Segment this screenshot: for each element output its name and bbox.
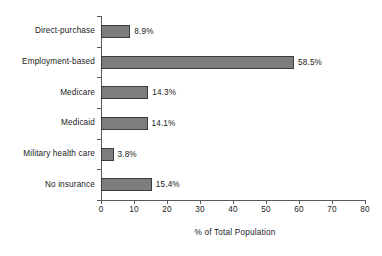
x-axis-tick [266, 200, 267, 204]
x-axis-tick-label: 30 [189, 205, 211, 215]
x-axis-title-text: % of Total Population [195, 228, 276, 237]
y-axis-label: Medicaid [3, 118, 95, 128]
x-axis-tick [233, 200, 234, 204]
x-axis-tick [365, 200, 366, 204]
x-axis-tick [134, 200, 135, 204]
y-axis-tick [97, 77, 101, 78]
x-axis-tick-label: 0 [90, 205, 112, 215]
y-axis-tick [97, 47, 101, 48]
y-axis-tick [97, 108, 101, 109]
bar-value-label: 14.1% [152, 117, 176, 130]
bar-chart: Direct-purchaseEmployment-basedMedicareM… [0, 0, 382, 256]
y-axis-label: Medicare [3, 88, 95, 98]
x-axis-tick-label: 40 [222, 205, 244, 215]
x-axis-tick-label: 60 [288, 205, 310, 215]
y-axis-tick [97, 169, 101, 170]
bar [101, 56, 294, 69]
x-axis-tick [332, 200, 333, 204]
bar-value-label: 14.3% [152, 86, 176, 99]
x-axis-tick-label: 50 [255, 205, 277, 215]
x-axis-tick [200, 200, 201, 204]
bar [101, 117, 148, 130]
x-axis-tick-label: 80 [354, 205, 376, 215]
bar [101, 25, 130, 38]
x-axis-title: % of Total Population [0, 228, 382, 237]
y-axis-label: Employment-based [3, 57, 95, 67]
x-axis-tick [167, 200, 168, 204]
y-axis-line [101, 16, 102, 201]
x-axis-tick [299, 200, 300, 204]
bar [101, 178, 152, 191]
x-axis-tick-label: 70 [321, 205, 343, 215]
bar-value-label: 8.9% [134, 25, 153, 38]
x-axis-tick [101, 200, 102, 204]
bar [101, 148, 114, 161]
y-axis-label: Military health care [3, 149, 95, 159]
x-axis-tick-label: 20 [156, 205, 178, 215]
bar [101, 86, 148, 99]
y-axis-label: Direct-purchase [3, 26, 95, 36]
y-axis-tick [97, 139, 101, 140]
bar-value-label: 58.5% [298, 56, 322, 69]
y-axis-label: No insurance [3, 180, 95, 190]
bar-value-label: 3.8% [118, 148, 137, 161]
x-axis-tick-label: 10 [123, 205, 145, 215]
y-axis-tick [97, 16, 101, 17]
bar-value-label: 15.4% [156, 178, 180, 191]
